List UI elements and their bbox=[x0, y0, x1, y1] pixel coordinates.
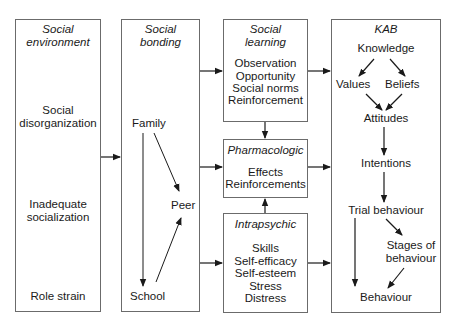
social-environment-title-2: environment bbox=[15, 36, 101, 49]
values-label: Values bbox=[336, 78, 370, 91]
self-esteem-label: Self-esteem bbox=[223, 267, 308, 280]
inadequate-socialization-label-2: socialization bbox=[15, 211, 101, 224]
observation-label: Observation bbox=[223, 57, 308, 70]
social-bonding-title-1: Social bbox=[121, 23, 200, 36]
reinforcement-label: Reinforcement bbox=[223, 94, 308, 107]
distress-label: Distress bbox=[223, 292, 308, 305]
reinforcements-label: Reinforcements bbox=[223, 178, 308, 191]
inadequate-socialization-label-1: Inadequate bbox=[15, 198, 101, 211]
family-label: Family bbox=[132, 117, 166, 130]
intrapsychic-title: Intrapsychic bbox=[223, 218, 308, 231]
social-bonding-title-2: bonding bbox=[121, 36, 200, 49]
social-environment-title-1: Social bbox=[15, 23, 101, 36]
social-disorganization-label-1: Social bbox=[15, 104, 101, 117]
social-environment-box bbox=[15, 19, 101, 312]
social-disorganization-label-2: disorganization bbox=[15, 117, 101, 130]
social-bonding-box bbox=[121, 19, 200, 312]
behaviour-label: Behaviour bbox=[331, 291, 441, 304]
pharmacologic-title: Pharmacologic bbox=[223, 144, 308, 157]
trial-behaviour-label: Trial behaviour bbox=[331, 204, 441, 217]
social-learning-title-1: Social bbox=[223, 23, 308, 36]
peer-label: Peer bbox=[171, 199, 195, 212]
stages-of-behaviour-label-1: Stages of bbox=[385, 239, 437, 252]
intentions-label: Intentions bbox=[331, 157, 441, 170]
school-label: School bbox=[130, 290, 165, 303]
social-learning-title-2: learning bbox=[223, 36, 308, 49]
role-strain-label: Role strain bbox=[15, 290, 101, 303]
stages-of-behaviour-label-2: behaviour bbox=[385, 252, 437, 265]
knowledge-label: Knowledge bbox=[331, 42, 441, 55]
attitudes-label: Attitudes bbox=[331, 112, 441, 125]
skills-label: Skills bbox=[223, 242, 308, 255]
kab-title: KAB bbox=[331, 23, 441, 36]
beliefs-label: Beliefs bbox=[385, 78, 420, 91]
